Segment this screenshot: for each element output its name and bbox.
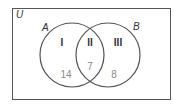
region-ii-count: 7	[87, 62, 93, 72]
circle-b	[76, 23, 140, 87]
region-i-label: I	[61, 38, 64, 48]
region-iii-count: 8	[111, 70, 117, 80]
set-a-label: A	[42, 23, 49, 33]
region-iii-label: III	[114, 38, 122, 48]
circles	[0, 0, 174, 107]
circle-a	[40, 23, 104, 87]
set-b-label: B	[133, 22, 140, 32]
region-ii-label: II	[87, 38, 93, 48]
region-i-count: 14	[60, 70, 71, 80]
venn-diagram: U A B I II III 14 7 8	[0, 0, 174, 107]
